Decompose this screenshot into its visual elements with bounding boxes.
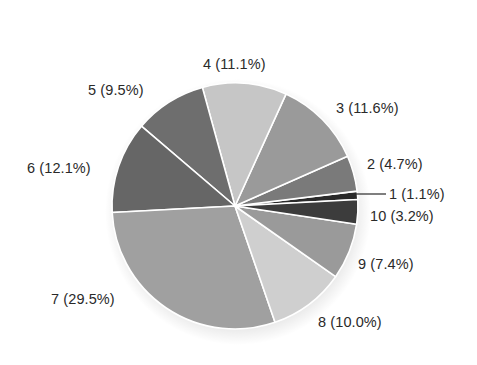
slice-label-3: 3 (11.6%) [336,101,399,116]
pie-chart-graphic [0,0,477,365]
slice-label-8: 8 (10.0%) [318,315,382,330]
slice-label-9: 9 (7.4%) [358,257,414,272]
pie-slices [112,83,358,329]
slice-label-6: 6 (12.1%) [27,161,91,176]
slice-label-2: 2 (4.7%) [367,157,423,172]
slice-label-4: 4 (11.1%) [203,57,266,72]
slice-label-5: 5 (9.5%) [88,83,144,98]
slice-label-10: 10 (3.2%) [370,209,434,224]
slice-label-1: 1 (1.1%) [389,187,445,202]
pie-chart: 1 (1.1%) 2 (4.7%) 3 (11.6%) 4 (11.1%) 5 … [0,0,477,365]
slice-label-7: 7 (29.5%) [51,292,115,307]
